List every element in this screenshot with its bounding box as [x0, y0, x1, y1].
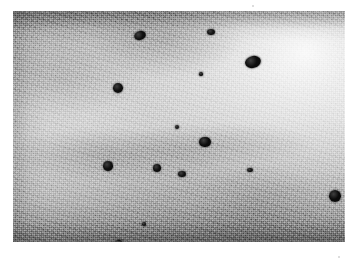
- scan-artifact-speck: [252, 5, 254, 7]
- micrograph-particle: [103, 161, 113, 170]
- micrograph-particle: [142, 222, 146, 226]
- figure-page: [0, 0, 356, 266]
- micrograph-particle: [199, 72, 202, 75]
- micrograph-particle: [178, 171, 185, 177]
- micrograph-particle: [247, 168, 252, 173]
- micrograph-particle: [113, 83, 123, 93]
- scan-artifact-speck: [338, 256, 340, 258]
- micrograph-particle: [329, 190, 341, 202]
- electron-micrograph: [13, 11, 345, 242]
- micrograph-particle: [199, 137, 210, 148]
